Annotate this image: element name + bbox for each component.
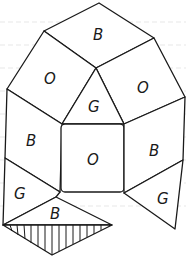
label-left: B: [26, 132, 36, 150]
label-upper-right: O: [137, 79, 149, 97]
label-upper-left: O: [44, 70, 56, 88]
label-center-square: O: [87, 151, 99, 169]
label-right: B: [149, 142, 159, 160]
label-lower-right: G: [157, 190, 169, 208]
label-bottom-triangle: B: [50, 205, 60, 223]
label-top: B: [93, 26, 103, 44]
label-lower-left: G: [14, 185, 26, 203]
polyhedron-net-diagram: B O O G B O B G B G: [0, 0, 186, 257]
label-center-triangle: G: [88, 98, 100, 116]
face-hatched-triangle: [3, 225, 112, 255]
